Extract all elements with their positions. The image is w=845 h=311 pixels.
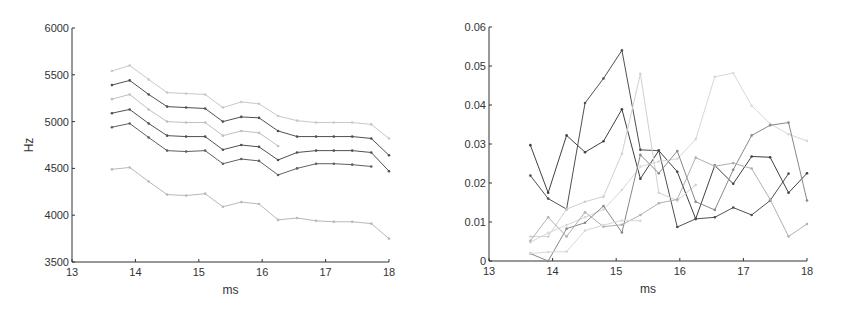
data-series-line (112, 167, 389, 238)
data-point-marker (584, 151, 587, 154)
data-point-marker (222, 162, 225, 165)
data-point-marker (370, 165, 373, 168)
x-tick-label: 16 (674, 265, 686, 277)
data-point-marker (658, 160, 661, 163)
data-point-marker (277, 145, 280, 148)
data-point-marker (694, 218, 697, 221)
data-point-marker (296, 217, 299, 220)
data-point-marker (787, 121, 790, 124)
data-point-marker (240, 158, 243, 161)
data-point-marker (222, 120, 225, 123)
data-point-marker (602, 224, 605, 227)
data-point-marker (111, 84, 114, 87)
data-point-marker (258, 132, 261, 135)
data-point-marker (713, 209, 716, 212)
data-point-marker (602, 77, 605, 80)
data-point-marker (240, 130, 243, 133)
data-point-marker (240, 116, 243, 119)
x-tick-label: 15 (193, 266, 205, 278)
data-point-marker (111, 70, 114, 73)
data-point-marker (315, 220, 318, 223)
data-point-marker (185, 150, 188, 153)
data-point-marker (204, 135, 207, 138)
data-point-marker (565, 227, 568, 230)
data-point-marker (787, 172, 790, 175)
data-point-marker (370, 137, 373, 140)
data-point-marker (602, 140, 605, 143)
data-point-marker (621, 223, 624, 226)
data-point-marker (240, 144, 243, 147)
data-point-marker (769, 156, 772, 159)
data-point-marker (529, 174, 532, 177)
data-point-marker (787, 235, 790, 238)
data-point-marker (185, 194, 188, 197)
data-point-marker (658, 149, 661, 152)
data-point-marker (565, 208, 568, 211)
y-tick-label: 4000 (45, 209, 69, 221)
data-point-marker (676, 226, 679, 229)
data-point-marker (639, 177, 642, 180)
data-point-marker (370, 123, 373, 126)
data-series-line (112, 65, 389, 138)
data-point-marker (529, 239, 532, 242)
y-tick-label: 5500 (45, 69, 69, 81)
data-point-marker (806, 199, 809, 202)
data-point-marker (621, 49, 624, 52)
data-point-marker (333, 121, 336, 124)
data-point-marker (602, 208, 605, 211)
x-tick-label: 14 (129, 266, 141, 278)
y-tick-label: 0.06 (465, 21, 486, 33)
data-point-marker (185, 135, 188, 138)
data-point-marker (351, 121, 354, 124)
data-point-marker (185, 121, 188, 124)
data-point-marker (732, 162, 735, 165)
data-point-marker (750, 134, 753, 137)
data-point-marker (694, 184, 697, 187)
x-axis-label: ms (223, 283, 239, 297)
data-point-marker (166, 193, 169, 196)
data-point-marker (111, 98, 114, 101)
data-point-marker (351, 220, 354, 223)
data-point-marker (128, 64, 131, 67)
data-point-marker (584, 211, 587, 214)
data-point-marker (315, 135, 318, 138)
data-point-marker (240, 101, 243, 104)
data-point-marker (315, 149, 318, 152)
data-point-marker (128, 108, 131, 111)
data-point-marker (639, 73, 642, 76)
data-point-marker (388, 170, 391, 173)
data-point-marker (565, 134, 568, 137)
y-tick-label: 6000 (45, 22, 69, 34)
data-point-marker (277, 130, 280, 133)
data-point-marker (806, 172, 809, 175)
data-point-marker (529, 252, 532, 255)
data-point-marker (694, 156, 697, 159)
data-point-marker (713, 165, 716, 168)
data-point-marker (128, 166, 131, 169)
right-chart: 13141516171800.010.020.030.040.050.06ms (465, 21, 814, 296)
data-point-marker (547, 197, 550, 200)
data-point-marker (147, 108, 150, 111)
data-point-marker (547, 260, 550, 263)
data-point-marker (584, 102, 587, 105)
data-point-marker (547, 251, 550, 254)
data-point-marker (204, 149, 207, 152)
data-point-marker (565, 224, 568, 227)
data-point-marker (351, 135, 354, 138)
data-point-marker (676, 158, 679, 161)
data-point-marker (565, 250, 568, 253)
y-tick-label: 0.01 (465, 216, 486, 228)
data-series-line (530, 109, 807, 219)
data-point-marker (676, 170, 679, 173)
data-point-marker (370, 151, 373, 154)
data-point-marker (787, 133, 790, 136)
data-point-marker (639, 165, 642, 168)
data-point-marker (204, 121, 207, 124)
x-axis-label: ms (640, 282, 656, 296)
data-point-marker (621, 219, 624, 222)
data-point-marker (166, 120, 169, 123)
data-point-marker (713, 216, 716, 219)
data-point-marker (147, 93, 150, 96)
data-point-marker (584, 216, 587, 219)
data-point-marker (750, 214, 753, 217)
